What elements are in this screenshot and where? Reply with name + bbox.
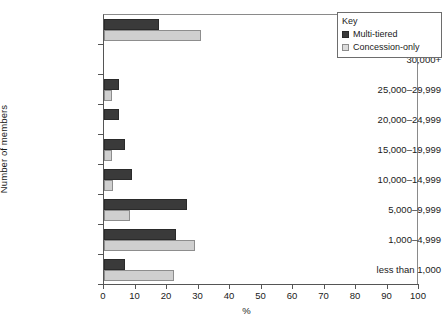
bar-multi-tiered [104, 169, 132, 180]
bar-concession-only [104, 150, 112, 161]
x-axis-tick-label: 20 [161, 290, 172, 301]
x-axis-tick-label: 80 [350, 290, 361, 301]
y-axis-tick-label: 1,000–4,999 [388, 234, 441, 245]
x-axis-tick-label: 90 [381, 290, 392, 301]
x-axis-tick-label: 0 [100, 290, 105, 301]
bar-concession-only [104, 210, 130, 221]
y-axis-tick-label: 20,000–24,999 [378, 114, 441, 125]
x-axis-tick [135, 284, 136, 289]
y-axis-tick-label: 5,000–9,999 [388, 204, 441, 215]
x-axis-tick-label: 30 [192, 290, 203, 301]
legend-label-multi-tiered: Multi-tiered [353, 28, 398, 40]
bar-multi-tiered [104, 229, 176, 240]
y-axis-tick-label: 25,000–29,999 [378, 84, 441, 95]
bar-concession-only [104, 30, 201, 41]
y-axis-tick [98, 104, 103, 105]
y-axis-tick-label: less than 1,000 [377, 264, 441, 275]
x-axis-tick [324, 284, 325, 289]
x-axis-tick-label: 60 [287, 290, 298, 301]
x-axis-tick [292, 284, 293, 289]
y-axis-tick [98, 44, 103, 45]
legend-swatch-icon-concession-only [342, 44, 349, 51]
x-axis-tick [229, 284, 230, 289]
legend-item-concession-only: Concession-only [342, 41, 437, 53]
y-axis-tick [98, 134, 103, 135]
x-axis-tick-label: 100 [410, 290, 426, 301]
x-axis-title: % [0, 305, 447, 316]
bar-concession-only [104, 90, 112, 101]
bar-concession-only [104, 180, 113, 191]
x-axis-title-text: % [242, 305, 250, 316]
legend: Key Multi-tiered Concession-only [337, 12, 442, 58]
bar-multi-tiered [104, 79, 119, 90]
bar-chart: Number of members N/A30,000+25,000–29,99… [0, 0, 447, 334]
bar-multi-tiered [104, 139, 125, 150]
x-axis-tick [355, 284, 356, 289]
x-axis-tick [198, 284, 199, 289]
bar-concession-only [104, 240, 195, 251]
legend-swatch-icon-multi-tiered [342, 31, 349, 38]
x-axis-tick [418, 284, 419, 289]
y-axis-tick-label: 15,000–19,999 [378, 144, 441, 155]
bar-multi-tiered [104, 19, 159, 30]
x-axis-tick [387, 284, 388, 289]
bar-multi-tiered [104, 259, 125, 270]
y-axis-tick [98, 254, 103, 255]
bar-multi-tiered [104, 199, 187, 210]
x-axis-tick [261, 284, 262, 289]
bar-concession-only [104, 270, 174, 281]
y-axis-title: Number of members [0, 14, 12, 284]
y-axis-tick [98, 194, 103, 195]
x-axis-tick [103, 284, 104, 289]
y-axis-tick [98, 74, 103, 75]
y-axis-tick [98, 164, 103, 165]
x-axis-tick-label: 40 [224, 290, 235, 301]
y-axis-tick-label: 10,000–14,999 [378, 174, 441, 185]
x-axis-tick-label: 70 [318, 290, 329, 301]
x-axis-tick [166, 284, 167, 289]
legend-item-multi-tiered: Multi-tiered [342, 28, 437, 40]
legend-title: Key [342, 16, 437, 27]
x-axis-tick-label: 50 [255, 290, 266, 301]
y-axis-tick [98, 224, 103, 225]
x-axis-tick-label: 10 [129, 290, 140, 301]
legend-label-concession-only: Concession-only [353, 41, 420, 53]
bar-multi-tiered [104, 109, 119, 120]
